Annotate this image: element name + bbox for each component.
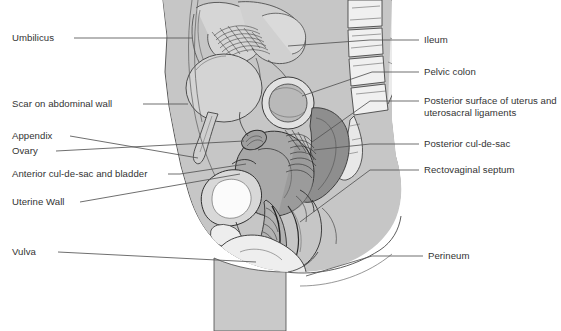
- label-scar-on-abdominal-wall: Scar on abdominal wall: [12, 98, 112, 110]
- caecum: [186, 54, 262, 122]
- pelvic-colon: [262, 77, 314, 129]
- label-rectovaginal-septum: Rectovaginal septum: [424, 164, 515, 176]
- label-vulva: Vulva: [12, 246, 36, 258]
- label-ileum: Ileum: [424, 34, 448, 46]
- diagram-canvas: Umbilicus Scar on abdominal wall Appendi…: [0, 0, 561, 331]
- leader-vulva: [58, 252, 256, 262]
- label-ovary: Ovary: [12, 145, 38, 157]
- label-uterine-wall: Uterine Wall: [12, 196, 65, 208]
- label-pelvic-colon: Pelvic colon: [424, 66, 476, 78]
- label-posterior-cul-de-sac: Posterior cul-de-sac: [424, 138, 510, 150]
- label-perineum: Perineum: [428, 250, 469, 262]
- label-umbilicus: Umbilicus: [12, 32, 54, 44]
- label-appendix: Appendix: [12, 130, 52, 142]
- label-anterior-cul-de-sac-and-bladder: Anterior cul-de-sac and bladder: [12, 168, 147, 180]
- label-posterior-surface-of-uterus: Posterior surface of uterus and uterosac…: [424, 95, 561, 118]
